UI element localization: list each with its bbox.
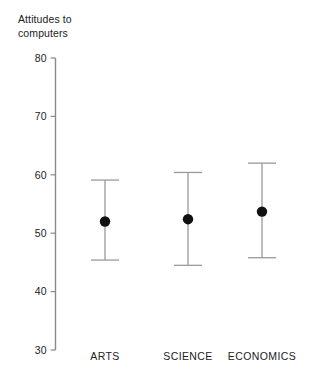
mean-marker: [257, 206, 267, 216]
y-axis-tick-label: 30: [35, 344, 47, 356]
chart-container: Attitudes to computers 304050607080ARTSS…: [0, 0, 326, 385]
y-axis-tick-label: 50: [35, 227, 47, 239]
y-axis-tick-label: 70: [35, 110, 47, 122]
y-axis-tick-label: 40: [35, 285, 47, 297]
mean-marker: [100, 216, 110, 226]
x-axis-category-label: SCIENCE: [163, 350, 212, 362]
x-axis-category-label: ARTS: [90, 350, 119, 362]
y-axis-tick-label: 80: [35, 52, 47, 64]
plot-area: 304050607080ARTSSCIENCEECONOMICS: [0, 0, 326, 385]
mean-marker: [183, 214, 193, 224]
y-axis-tick-label: 60: [35, 169, 47, 181]
x-axis-category-label: ECONOMICS: [228, 350, 296, 362]
